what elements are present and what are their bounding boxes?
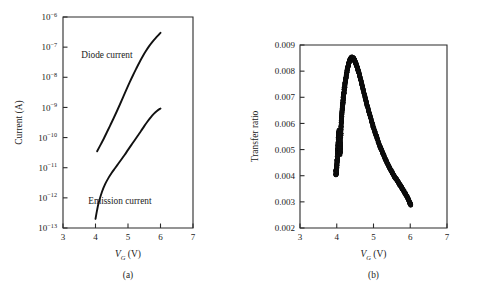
panel-a-yticklabel: 10−9 [41,101,57,113]
panel-a-xticklabel: 5 [126,232,131,242]
panel-a-yticklabel: 10−11 [39,161,57,173]
panel-b-xticklabel: 3 [298,232,303,242]
panel-b-yticklabel: 0.006 [275,119,296,129]
panel-a-xlabel: VG (V) [115,249,141,261]
panel-b-yticklabel: 0.008 [275,66,296,76]
panel-b-yticklabel: 0.005 [275,145,296,155]
panel-b-yticklabel: 0.004 [275,171,296,181]
panel-a-yticklabel: 10−6 [41,11,57,23]
panel-a-xticklabel: 4 [93,232,98,242]
panel-a-xticklabel: 7 [191,232,196,242]
panel-b-ylabel: Transfer ratio [250,110,260,162]
panel-b-xticklabel: 7 [445,232,450,242]
panel-a-yticklabel: 10−7 [41,41,57,53]
panel-b-yticklabel: 0.009 [275,40,296,50]
panel-b-xlabel: VG (V) [360,249,386,261]
panel-a-annotation-1: Diode current [81,50,133,60]
panel-b: 345670.0020.0030.0040.0050.0060.0070.008… [250,40,450,281]
panel-b-scatter-cloud [333,55,413,208]
panel-b-frame [300,45,447,228]
panel-a-yticklabel: 10−10 [38,131,57,143]
figure-svg: 3456710−1310−1210−1110−1010−910−810−710−… [0,0,483,292]
panel-a-yticklabel: 10−8 [41,71,57,83]
panel-a-ylabel: Current (A) [14,100,25,145]
panel-b-yticklabel: 0.007 [275,92,296,102]
panel-b-xticklabel: 4 [335,232,340,242]
panel-b-caption: (b) [368,270,379,281]
panel-b-datapoint [409,203,414,208]
panel-a: 3456710−1310−1210−1110−1010−910−810−710−… [14,11,196,281]
panel-b-yticklabel: 0.002 [275,223,295,233]
panel-a-annotation-2: Emission current [88,196,152,206]
panel-a-yticklabel: 10−13 [38,222,57,234]
panel-b-xticklabel: 6 [408,232,413,242]
panel-b-yticklabel: 0.003 [275,197,296,207]
panel-a-xticklabel: 6 [158,232,163,242]
figure-container: 3456710−1310−1210−1110−1010−910−810−710−… [0,0,483,292]
panel-a-xticklabel: 3 [61,232,66,242]
panel-a-caption: (a) [123,270,133,281]
panel-b-xticklabel: 5 [371,232,376,242]
panel-a-yticklabel: 10−12 [38,191,57,203]
